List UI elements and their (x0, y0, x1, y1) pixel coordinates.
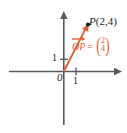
left-paren: ( (96, 37, 100, 53)
vector-equation: OP = ( 2 4 ) (72, 37, 111, 53)
y-axis-arrowhead (60, 11, 67, 19)
equals-sign: = (87, 38, 93, 52)
x-axis-arrowhead (114, 68, 122, 75)
x-axis-tick-label: 1 (73, 76, 78, 86)
vector-diagram: P(2,4) 0 1 1 OP = ( 2 4 ) (0, 0, 127, 133)
vector-overarrow-icon (72, 37, 85, 41)
point-p-name: P (89, 15, 96, 27)
vector-op-name-text: OP (72, 41, 85, 52)
origin-label: 0 (57, 72, 63, 83)
y-axis-tick-label: 1 (52, 53, 57, 63)
point-p-coordinates: (2,4) (96, 15, 117, 27)
column-vector: ( 2 4 ) (95, 37, 111, 53)
right-paren: ) (105, 37, 109, 53)
point-p-label: P(2,4) (89, 16, 117, 27)
vector-op-name-label: OP (72, 38, 85, 52)
